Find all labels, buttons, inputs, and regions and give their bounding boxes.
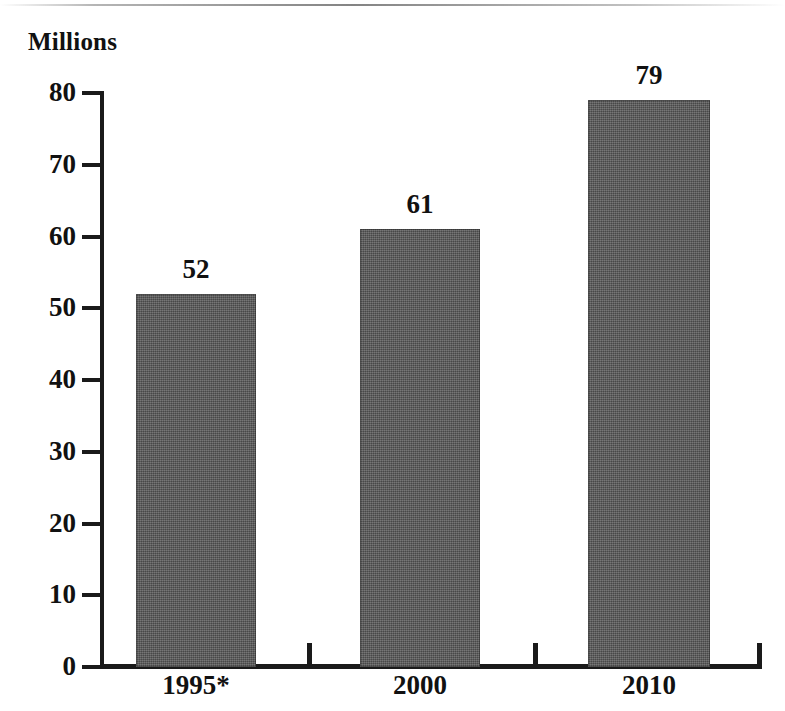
bar-value-label: 61 — [360, 191, 480, 218]
y-axis-tick-label: 40 — [0, 366, 76, 393]
y-axis-tick — [82, 306, 102, 310]
y-axis-tick — [82, 522, 102, 526]
plot-area — [100, 93, 760, 667]
y-axis-tick — [82, 593, 102, 597]
y-axis-tick — [82, 378, 102, 382]
y-axis-tick — [82, 235, 102, 239]
y-axis-tick — [82, 163, 102, 167]
bar — [360, 229, 480, 667]
y-axis-tick-label: 10 — [0, 581, 76, 608]
bar-value-label: 79 — [588, 62, 710, 89]
y-axis-tick-label: 20 — [0, 510, 76, 537]
axis-unit-label: Millions — [28, 28, 117, 56]
y-axis-tick-label: 70 — [0, 151, 76, 178]
y-axis-tick — [82, 450, 102, 454]
bar-chart: Millions 01020304050607080 1995*20002010… — [0, 0, 785, 711]
y-axis-tick-label: 80 — [0, 79, 76, 106]
bar-value-label: 52 — [136, 256, 256, 283]
y-axis-tick-label: 30 — [0, 438, 76, 465]
x-axis-label: 2010 — [548, 672, 750, 699]
bar — [588, 100, 710, 667]
y-axis-tick — [82, 665, 102, 669]
bar — [136, 294, 256, 667]
x-axis-label: 1995* — [96, 672, 296, 699]
x-axis-label: 2000 — [320, 672, 520, 699]
y-axis-tick-label: 60 — [0, 223, 76, 250]
y-axis-tick-label: 50 — [0, 294, 76, 321]
y-axis-tick — [82, 91, 102, 95]
y-axis-tick-label: 0 — [0, 653, 76, 680]
